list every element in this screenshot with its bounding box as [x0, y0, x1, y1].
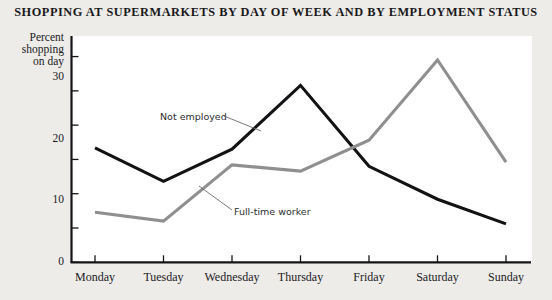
x-tick-label-tuesday: Tuesday: [143, 270, 183, 285]
y-tick-label-0: 0: [34, 255, 64, 267]
y-tick-label-30: 30: [34, 70, 64, 82]
x-tick-label-wednesday: Wednesday: [204, 270, 259, 285]
x-tick-label-thursday: Thursday: [278, 270, 323, 285]
y-tick-label-10: 10: [34, 193, 64, 205]
series-label-full-time-worker: Full-time worker: [234, 206, 311, 217]
chart-title: SHOPPING AT SUPERMARKETS BY DAY OF WEEK …: [0, 5, 552, 20]
series-label-not-employed: Not employed: [160, 111, 227, 122]
y-axis-title-line-3: on day: [0, 56, 64, 68]
y-axis-title-line-2: shopping: [0, 44, 64, 56]
chart-figure: SHOPPING AT SUPERMARKETS BY DAY OF WEEK …: [0, 0, 552, 300]
y-axis-title: Percent shopping on day: [0, 32, 64, 67]
x-tick-label-friday: Friday: [353, 270, 384, 285]
y-tick-label-20: 20: [34, 132, 64, 144]
x-tick-label-saturday: Saturday: [416, 270, 459, 285]
plot-area: [71, 36, 532, 262]
x-tick-label-sunday: Sunday: [488, 270, 524, 285]
x-tick-label-monday: Monday: [75, 270, 115, 285]
